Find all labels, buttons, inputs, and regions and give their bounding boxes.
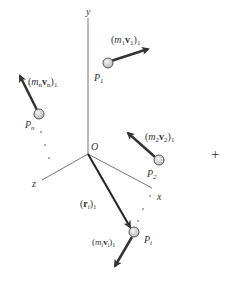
continuation-dots-left (40, 131, 50, 159)
continuation-dots-right (137, 195, 151, 222)
momentum-label-p2: (m2v2)1 (145, 131, 175, 144)
momentum-arrow-p1 (111, 49, 148, 61)
x-axis-label: x (156, 191, 162, 202)
particle-label-pn: Pn (24, 119, 35, 132)
y-axis-label: y (85, 6, 91, 17)
particle-label-p2: P2 (146, 168, 157, 181)
momentum-arrow-pi (115, 237, 132, 266)
particle-system-diagram: y z x O (ri)1 P1 (m1v1)1 Pn (mnvn)1 (0, 0, 233, 287)
particle-circle-pi (129, 227, 139, 237)
particle-p1: P1 (m1v1)1 (93, 34, 148, 85)
plus-sign: + (211, 146, 219, 162)
z-axis-label: z (31, 178, 36, 189)
particle-circle-p2 (154, 155, 164, 165)
particle-pi: Pi (mivi)1 (92, 227, 152, 266)
position-vector-label: (ri)1 (80, 198, 97, 211)
particle-pn: Pn (mnvn)1 (20, 76, 58, 132)
momentum-label-p1: (m1v1)1 (111, 34, 141, 47)
momentum-label-pn: (mnvn)1 (28, 76, 58, 89)
particle-label-pi: Pi (143, 234, 152, 247)
origin-label: O (91, 141, 98, 152)
particle-circle-pn (34, 109, 44, 119)
particle-p2: P2 (m2v2)1 (128, 131, 175, 181)
particle-label-p1: P1 (93, 72, 104, 85)
momentum-label-pi: (mivi)1 (92, 237, 115, 248)
particle-circle-p1 (103, 58, 113, 68)
